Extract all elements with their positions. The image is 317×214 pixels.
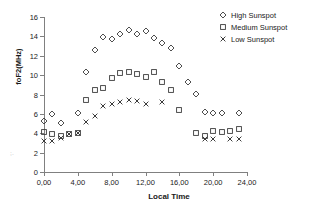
data-point xyxy=(219,129,225,135)
data-point xyxy=(109,36,115,42)
data-point xyxy=(41,118,47,124)
scan-artifact: ; . xyxy=(10,151,13,156)
chart-root: ; . foF2(MHz) 0246810121416 0,004,008,00… xyxy=(0,0,317,214)
data-point xyxy=(58,120,64,126)
legend-item: High Sunspot xyxy=(219,9,287,21)
data-point xyxy=(176,107,182,113)
x-tick-label: 8,00 xyxy=(104,178,119,187)
data-point xyxy=(219,110,225,116)
y-tick-label: 16 xyxy=(30,13,38,22)
data-point xyxy=(83,97,89,103)
data-point xyxy=(75,110,81,116)
data-point xyxy=(168,87,174,93)
data-point xyxy=(126,97,132,103)
data-point xyxy=(49,138,55,144)
data-point xyxy=(159,79,165,85)
data-point xyxy=(202,109,208,115)
data-point xyxy=(227,136,233,142)
x-tick xyxy=(112,172,113,176)
data-point xyxy=(41,129,47,135)
y-tick xyxy=(40,75,44,76)
x-tick-label: 4,00 xyxy=(71,178,86,187)
x-tick xyxy=(179,172,180,176)
data-point xyxy=(100,34,106,40)
legend-item: Low Sunspot xyxy=(219,33,287,45)
x-tick-label: 20,00 xyxy=(204,178,223,187)
data-point xyxy=(210,110,216,116)
x-tick-label: 24,00 xyxy=(238,178,257,187)
data-point xyxy=(100,85,106,91)
data-point xyxy=(159,40,165,46)
data-point xyxy=(143,28,149,34)
y-tick xyxy=(40,36,44,37)
data-point xyxy=(66,131,72,137)
y-tick-label: 12 xyxy=(30,51,38,60)
data-point xyxy=(117,31,123,37)
x-tick-label: 0,00 xyxy=(37,178,52,187)
data-point xyxy=(109,101,115,107)
data-point xyxy=(134,71,140,77)
legend-item-label: Low Sunspot xyxy=(231,35,274,44)
y-axis-title: foF2(MHz) xyxy=(14,27,23,107)
data-point xyxy=(143,74,149,80)
data-point xyxy=(49,131,55,137)
x-tick xyxy=(213,172,214,176)
x-axis-title: Local Time xyxy=(44,192,294,201)
data-point xyxy=(83,119,89,125)
legend-item-label: Medium Sunspot xyxy=(231,23,287,32)
data-point xyxy=(193,91,199,97)
data-point xyxy=(159,99,165,105)
data-point xyxy=(92,113,98,119)
data-point xyxy=(236,126,242,132)
data-point xyxy=(210,136,216,142)
x-tick xyxy=(247,172,248,176)
x-tick xyxy=(146,172,147,176)
data-point xyxy=(58,135,64,141)
y-tick-label: 8 xyxy=(34,90,38,99)
legend: High Sunspot Medium Sunspot Low Sunspot xyxy=(219,9,287,45)
y-tick-label: 14 xyxy=(30,32,38,41)
data-point xyxy=(109,75,115,81)
data-point xyxy=(151,35,157,41)
data-point xyxy=(143,101,149,107)
data-point xyxy=(134,31,140,37)
data-point xyxy=(117,70,123,76)
data-point xyxy=(193,130,199,136)
x-tick xyxy=(78,172,79,176)
data-point xyxy=(236,136,242,142)
data-point xyxy=(92,87,98,93)
x-tick-label: 16,00 xyxy=(170,178,189,187)
y-tick-label: 6 xyxy=(34,109,38,118)
data-point xyxy=(117,99,123,105)
y-tick xyxy=(40,95,44,96)
data-point xyxy=(49,111,55,117)
y-tick-label: 4 xyxy=(34,129,38,138)
data-point xyxy=(210,128,216,134)
x-tick-label: 12,00 xyxy=(136,178,155,187)
data-point xyxy=(134,98,140,104)
y-tick xyxy=(40,56,44,57)
data-point xyxy=(92,47,98,53)
y-tick-label: 2 xyxy=(34,148,38,157)
data-point xyxy=(100,103,106,109)
y-tick-label: 10 xyxy=(30,71,38,80)
y-tick xyxy=(40,17,44,18)
data-point xyxy=(126,27,132,33)
plot-area: 0246810121416 0,004,008,0012,0016,0020,0… xyxy=(44,17,247,172)
y-tick-label: 0 xyxy=(34,168,38,177)
legend-item: Medium Sunspot xyxy=(219,21,287,33)
data-point xyxy=(126,69,132,75)
data-point xyxy=(202,136,208,142)
y-axis-line xyxy=(44,17,45,172)
cross-marker-icon xyxy=(219,35,227,43)
data-point xyxy=(176,63,182,69)
data-point xyxy=(83,69,89,75)
data-point xyxy=(185,79,191,85)
data-point xyxy=(236,110,242,116)
data-point xyxy=(75,130,81,136)
diamond-marker-icon xyxy=(219,11,227,19)
square-marker-icon xyxy=(219,23,227,31)
legend-item-label: High Sunspot xyxy=(231,11,276,20)
y-tick xyxy=(40,114,44,115)
data-point xyxy=(168,45,174,51)
